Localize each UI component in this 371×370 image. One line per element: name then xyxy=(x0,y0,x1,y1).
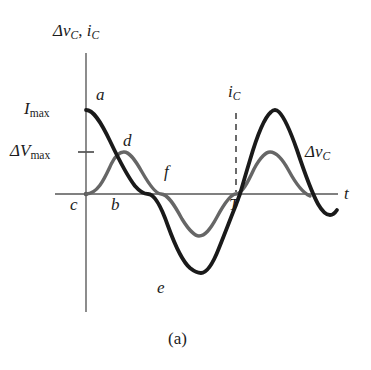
figure-caption: (a) xyxy=(168,330,187,347)
tick-label-i-max: Imax xyxy=(24,100,50,120)
point-label-a: a xyxy=(96,86,105,103)
curve-label-delta-vc-symbol: Δv xyxy=(305,142,323,161)
x-axis-label-t: t xyxy=(344,185,349,202)
i-max-subscript: max xyxy=(30,107,50,120)
point-label-e: e xyxy=(157,279,165,296)
curve-label-ic: iC xyxy=(228,83,240,103)
tick-label-delta-v-max: ΔVmax xyxy=(10,142,50,162)
y-axis-label: ΔvC, iC xyxy=(53,22,99,42)
curve-label-delta-vc: ΔvC xyxy=(305,143,330,163)
figure-capacitor-ac-waveforms: ΔvC, iC Imax ΔVmax a b c d e f T iC ΔvC … xyxy=(0,0,371,370)
point-label-d: d xyxy=(123,132,132,149)
y-axis-label-comma: , xyxy=(78,21,87,40)
delta-v-max-subscript: max xyxy=(30,149,50,162)
y-axis-label-i-subscript: C xyxy=(91,29,99,42)
delta-v-max-symbol: ΔV xyxy=(10,141,30,160)
point-label-f: f xyxy=(164,163,169,180)
point-label-b: b xyxy=(111,196,120,213)
curve-label-delta-vc-subscript: C xyxy=(323,150,331,163)
y-axis-label-delta-v: Δv xyxy=(53,21,71,40)
point-label-T: T xyxy=(229,196,238,213)
waveform-plot xyxy=(0,0,371,370)
point-label-c: c xyxy=(70,196,78,213)
curve-label-ic-subscript: C xyxy=(233,90,241,103)
